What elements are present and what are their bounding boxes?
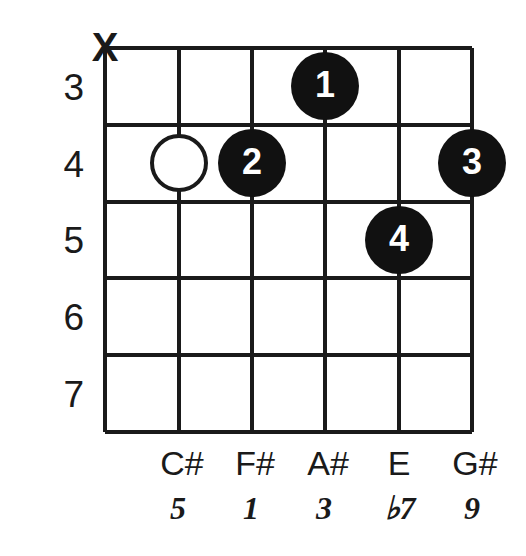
interval-string-5: ♭7 <box>385 492 416 524</box>
interval-string-2: 5 <box>170 492 186 524</box>
finger-dot-label: 2 <box>242 144 262 180</box>
fret-line-4 <box>105 353 472 357</box>
fret-number: 6 <box>38 299 84 336</box>
fret-line-top <box>105 46 472 50</box>
interval-string-4: 3 <box>316 492 332 524</box>
open-string-circle-string-2 <box>150 134 208 192</box>
finger-dot-label: 1 <box>315 67 335 103</box>
string-line-2 <box>177 48 181 432</box>
interval-string-3: 1 <box>243 492 259 524</box>
string-line-3 <box>250 48 254 432</box>
note-name-string-3: F# <box>235 446 275 480</box>
note-name-string-5: E <box>388 446 411 480</box>
finger-dot-label: 4 <box>389 221 409 257</box>
finger-dot-1: 1 <box>291 52 359 120</box>
finger-dot-3: 3 <box>438 129 506 197</box>
chord-diagram: 3 4 5 6 7 X 1 2 3 4 C# F# A# E <box>0 0 526 556</box>
fret-number-column: 3 4 5 6 7 <box>12 48 84 432</box>
string-line-1 <box>103 48 107 432</box>
note-name-string-2: C# <box>160 446 203 480</box>
fret-number: 3 <box>38 69 84 106</box>
mute-marker-string-1: X <box>92 27 119 67</box>
fret-number: 4 <box>38 146 84 183</box>
note-name-string-4: A# <box>307 446 349 480</box>
interval-string-6: 9 <box>464 492 480 524</box>
finger-dot-label: 3 <box>462 144 482 180</box>
fret-line-3 <box>105 276 472 280</box>
fret-number: 7 <box>38 376 84 413</box>
fret-line-bottom <box>105 430 472 434</box>
fret-line-2 <box>105 200 472 204</box>
fret-number: 5 <box>38 222 84 259</box>
string-line-6 <box>470 48 474 432</box>
finger-dot-4: 4 <box>365 206 433 274</box>
fret-line-1 <box>105 123 472 127</box>
note-name-string-6: G# <box>452 446 497 480</box>
finger-dot-2: 2 <box>218 129 286 197</box>
